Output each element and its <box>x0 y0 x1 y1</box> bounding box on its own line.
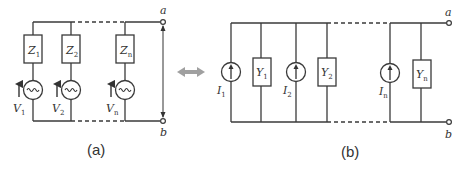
voltage-label: V2 <box>52 102 64 117</box>
terminal-a-label: a <box>160 4 167 17</box>
current-source-i1: I1 <box>216 23 241 122</box>
voltage-label: V1 <box>13 102 25 117</box>
branch-a-n: Zn Vn <box>106 22 135 121</box>
terminal-b <box>161 119 166 124</box>
branch-a-1: Z1 V1 <box>13 22 43 121</box>
current-source-i2: I2 <box>282 23 306 122</box>
terminal-b <box>447 120 452 125</box>
current-label: I2 <box>282 84 292 99</box>
current-label: I1 <box>216 84 226 99</box>
terminal-a-label: a <box>445 6 452 19</box>
terminal-a <box>161 20 166 25</box>
current-label: In <box>378 85 388 100</box>
voltage-label: Vn <box>106 102 119 117</box>
admittance-yn: Yn <box>413 23 431 122</box>
terminal-a <box>447 21 452 26</box>
caption-a: (a) <box>87 141 105 158</box>
admittance-y1: Y1 <box>253 23 271 122</box>
branch-a-2: Z2 V2 <box>52 22 81 121</box>
arrow-down-icon <box>161 112 166 118</box>
circuit-figure: Z1 V1 Z2 V2 Zn Vn a <box>0 0 464 173</box>
terminal-b-label: b <box>160 126 167 139</box>
arrow-up-icon <box>161 25 166 31</box>
current-source-in: In <box>378 23 400 122</box>
equivalence-arrow-icon <box>177 67 205 77</box>
circuit-b: I1 Y1 I2 Y2 In <box>216 6 452 141</box>
caption-b: (b) <box>341 143 359 160</box>
circuit-a: Z1 V1 Z2 V2 Zn Vn a <box>13 4 167 139</box>
terminal-b-label: b <box>445 128 452 141</box>
admittance-y2: Y2 <box>318 23 336 122</box>
